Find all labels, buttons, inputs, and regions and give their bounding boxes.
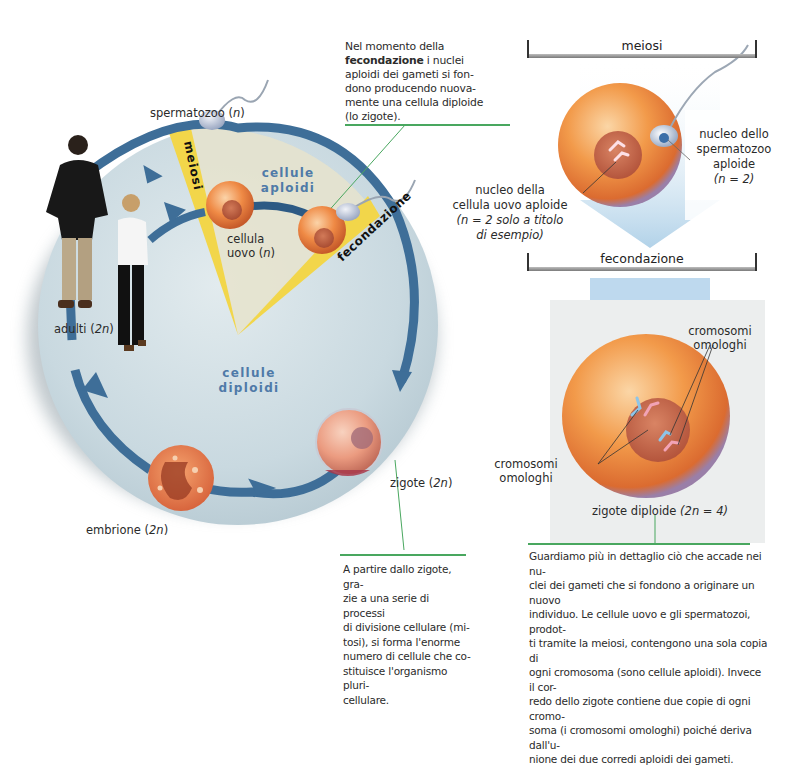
bottom-left-caption-rule bbox=[340, 554, 466, 556]
bottom-right-caption-rule bbox=[528, 543, 750, 545]
adulti-label: adulti (2n) bbox=[54, 322, 114, 336]
mitosis-caption: A partire dallo zigote, gra- zie a una s… bbox=[343, 562, 473, 707]
nucleo-spermatozoo-label: nucleo dello spermatozoo aploide (n = 2) bbox=[684, 127, 784, 187]
nucleo-uovo-label: nucleo della cellula uovo aploide (n = 2… bbox=[440, 183, 580, 243]
embrione-label: embrione (2n) bbox=[86, 523, 168, 537]
cromosomi-omologhi-left-label: cromosomi omologhi bbox=[486, 457, 566, 485]
meiosi-bracket-label: meiosi bbox=[529, 38, 755, 53]
cellule-diploidi-label: cellule diploidi bbox=[194, 366, 304, 396]
fertilization-detail-diagram: meiosi nucleo dello spermatozoo aploide … bbox=[520, 0, 789, 680]
detail-caption: Guardiamo più in dettaglio ciò che accad… bbox=[529, 549, 769, 767]
zigote-label: zigote (2n) bbox=[390, 476, 452, 490]
cromosomi-omologhi-top-label: cromosomi omologhi bbox=[680, 324, 760, 352]
spermatozoo-label: spermatozoo (n) bbox=[150, 106, 245, 120]
zigote-diploide-label: zigote diploide (2n = 4) bbox=[580, 504, 740, 518]
meiosi-bracket: meiosi bbox=[527, 40, 757, 58]
sperm-cell-fertilizing bbox=[336, 203, 360, 221]
top-caption-rule bbox=[345, 124, 510, 126]
cellula-uovo-label: cellula uovo (n) bbox=[227, 232, 275, 260]
fecondazione-bracket-label: fecondazione bbox=[529, 251, 755, 266]
fecondazione-bracket: fecondazione bbox=[527, 253, 757, 271]
life-cycle-diagram: meiosi fecondazione Nel momento della fe… bbox=[0, 0, 520, 680]
fecondazione-caption: Nel momento della fecondazione i nuclei … bbox=[345, 40, 505, 124]
cellule-aploidi-label: celluleaploidi bbox=[258, 166, 318, 196]
